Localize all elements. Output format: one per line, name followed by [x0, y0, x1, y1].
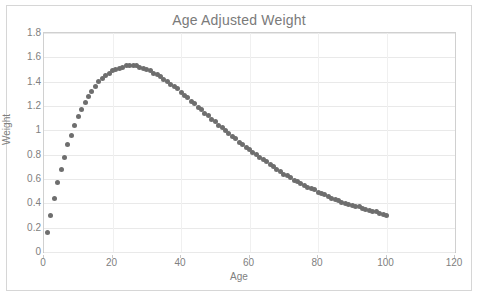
data-point: [65, 142, 70, 147]
data-point: [79, 107, 84, 112]
y-axis-tick-label: 0: [15, 246, 41, 257]
chart-title: Age Adjusted Weight: [7, 12, 471, 28]
x-axis-tick-label: 20: [106, 257, 117, 268]
data-point: [52, 196, 57, 201]
gridline-vertical: [113, 33, 114, 252]
data-point: [59, 167, 64, 172]
x-axis-tick-label: 0: [40, 257, 46, 268]
x-axis-tick-label: 80: [311, 257, 322, 268]
data-point: [55, 180, 60, 185]
chart-container: Age Adjusted Weight 00.20.40.60.811.21.4…: [6, 5, 472, 291]
plot-area: [43, 32, 456, 253]
y-axis-title: Weight: [1, 114, 12, 145]
y-axis-tick-label: 0.4: [15, 197, 41, 208]
y-axis-tick-label: 1.8: [15, 27, 41, 38]
data-point: [83, 100, 88, 105]
data-point: [62, 155, 67, 160]
y-axis-tick-label: 1.6: [15, 51, 41, 62]
data-point: [89, 89, 94, 94]
gridline-vertical: [387, 33, 388, 252]
x-axis-tick-label: 40: [174, 257, 185, 268]
x-axis-tick-label: 120: [446, 257, 463, 268]
data-point: [76, 114, 81, 119]
y-axis-tick-labels: 00.20.40.60.811.21.41.61.8: [11, 32, 41, 253]
gridline-horizontal: [44, 252, 455, 253]
data-point: [72, 123, 77, 128]
y-axis-tick-label: 0.6: [15, 173, 41, 184]
y-axis-tick-label: 1.2: [15, 100, 41, 111]
data-point: [48, 213, 53, 218]
y-axis-tick-label: 0.8: [15, 148, 41, 159]
gridline-vertical: [250, 33, 251, 252]
gridline-vertical: [318, 33, 319, 252]
data-point: [93, 84, 98, 89]
data-point: [384, 213, 389, 218]
x-axis-tick-label: 100: [377, 257, 394, 268]
chart-screenshot: Age Adjusted Weight 00.20.40.60.811.21.4…: [0, 0, 478, 298]
y-axis-tick-label: 1.4: [15, 75, 41, 86]
x-axis-title: Age: [7, 271, 471, 282]
gridline-vertical: [181, 33, 182, 252]
y-axis-tick-label: 1: [15, 124, 41, 135]
data-point: [86, 94, 91, 99]
x-axis-tick-label: 60: [243, 257, 254, 268]
data-point: [69, 133, 74, 138]
y-axis-tick-label: 0.2: [15, 221, 41, 232]
data-point: [45, 230, 50, 235]
